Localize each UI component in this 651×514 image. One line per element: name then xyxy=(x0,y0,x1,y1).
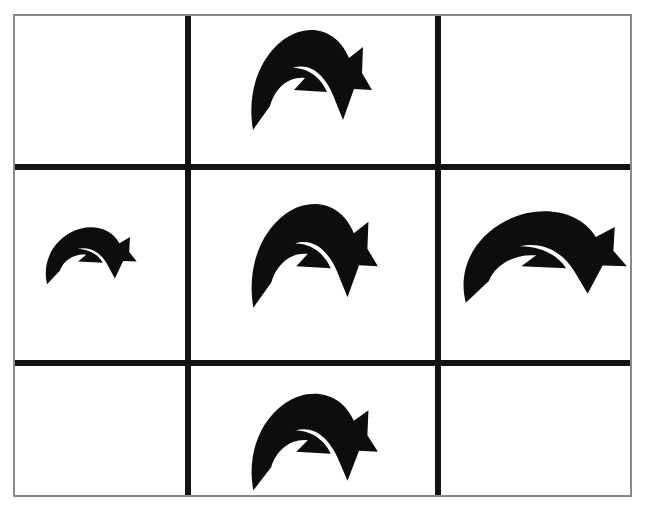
curved-arrow-path xyxy=(252,394,378,491)
arrow-top-center xyxy=(245,24,375,140)
arrow-bottom-center xyxy=(245,388,381,500)
figure-root xyxy=(0,0,651,514)
arrow-middle-right xyxy=(455,206,631,312)
grid-cell-top-left[interactable] xyxy=(15,16,185,164)
curved-arrow-icon xyxy=(245,24,375,140)
curved-arrow-icon xyxy=(455,206,631,312)
grid-cell-bottom-left[interactable] xyxy=(15,366,185,495)
grid-cell-bottom-right[interactable] xyxy=(441,366,630,495)
curved-arrow-path xyxy=(46,227,137,284)
curved-arrow-path xyxy=(251,30,372,130)
curved-arrow-icon xyxy=(245,198,381,318)
curved-arrow-path xyxy=(252,204,378,308)
arrow-middle-center xyxy=(245,198,381,318)
arrow-middle-left xyxy=(41,224,139,290)
curved-arrow-path xyxy=(464,211,627,302)
curved-arrow-icon xyxy=(245,388,381,500)
grid-cell-top-right[interactable] xyxy=(441,16,630,164)
curved-arrow-icon xyxy=(41,224,139,290)
